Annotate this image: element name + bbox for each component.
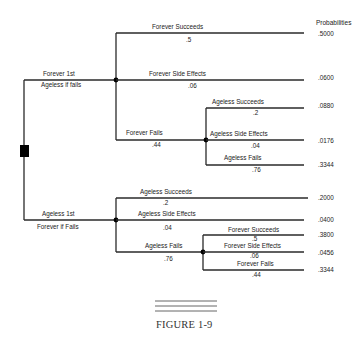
final-probability: .5000 [318, 30, 334, 37]
branch-forever-first-label: Forever 1st [43, 70, 75, 77]
figure-caption: FIGURE 1-9 [156, 319, 213, 330]
outcome-label: Ageless Fails [224, 154, 261, 162]
final-probability: .0400 [318, 216, 334, 223]
outcome-prob: .04 [251, 142, 260, 149]
decision-tree-diagram: Probabilities Forever 1st Ageless if fai… [0, 0, 364, 345]
probabilities-header: Probabilities [316, 19, 352, 26]
outcome-prob: .44 [152, 141, 161, 148]
outcome-prob: .2 [253, 109, 259, 116]
outcome-prob: .76 [164, 255, 173, 262]
outcome-prob: .76 [252, 166, 261, 173]
outcome-label: Forever Side Effects [149, 70, 206, 77]
final-probability: .3344 [318, 161, 334, 168]
final-probability: .0456 [318, 249, 334, 256]
outcome-label: Ageless Side Effects [210, 130, 268, 138]
outcome-label: Ageless Succeeds [140, 188, 192, 196]
branch-forever-first-sublabel: Ageless if fails [41, 81, 81, 89]
outcome-prob: .04 [163, 224, 172, 231]
decision-node-square[interactable] [20, 145, 29, 157]
outcome-prob: .06 [250, 252, 259, 259]
final-probability: .3344 [318, 266, 334, 273]
outcome-label: Forever Succeeds [152, 23, 203, 30]
outcome-prob: .06 [188, 82, 197, 89]
outcome-label: Forever Fails [126, 129, 163, 136]
final-probability: .0600 [318, 74, 334, 81]
outcome-label: Ageless Side Effects [138, 210, 196, 218]
outcome-label: Forever Side Effects [224, 242, 281, 249]
outcome-label: Forever Fails [237, 260, 274, 267]
outcome-prob: .44 [252, 271, 261, 278]
branch-ageless-first-sublabel: Forever if Fails [37, 223, 79, 230]
outcome-label: Ageless Succeeds [212, 98, 264, 106]
final-probability: .2000 [318, 194, 334, 201]
outcome-prob: .5 [252, 235, 258, 242]
outcome-label: Ageless Fails [145, 242, 182, 250]
final-probability: .0176 [318, 137, 334, 144]
final-probability: .3800 [318, 231, 334, 238]
outcome-prob: .2 [163, 199, 169, 206]
final-probability: .0880 [318, 102, 334, 109]
outcome-prob: .5 [186, 36, 192, 43]
branch-ageless-first-label: Ageless 1st [42, 210, 75, 218]
outcome-label: Forever Succeeds [228, 226, 279, 233]
